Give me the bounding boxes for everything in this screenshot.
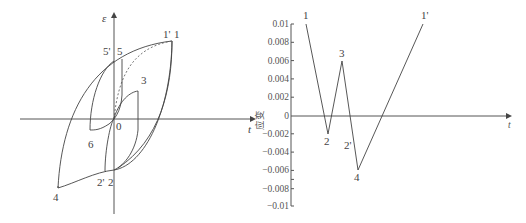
y-tick-labels: 0.01 0.008 0.006 0.004 0.002 0 −0.002 −0… — [262, 19, 289, 211]
point-label-6: 6 — [88, 138, 94, 150]
strain-history-chart: 应变 0.01 0.008 0.006 0.004 0.002 0 −0.002… — [254, 9, 512, 211]
svg-text:0.01: 0.01 — [272, 19, 289, 29]
point-label-1: 1 — [174, 28, 180, 40]
svg-text:0.004: 0.004 — [268, 74, 290, 84]
y-axis-label: ε — [102, 12, 107, 24]
point-label-2-prime: 2' — [344, 139, 352, 151]
point-label-5-prime: 5' — [103, 45, 111, 57]
y-axis-label: 应变 — [254, 110, 265, 130]
svg-text:−0.002: −0.002 — [262, 129, 289, 139]
point-label-0: 0 — [116, 120, 122, 132]
svg-text:−0.006: −0.006 — [262, 165, 289, 175]
svg-text:−0.01: −0.01 — [267, 201, 289, 211]
point-label-4: 4 — [354, 171, 360, 183]
strain-path-line — [306, 24, 423, 170]
figure-canvas: ε t 1' 1 5' 5 3 0 6 2' 2 4 应变 — [0, 0, 526, 223]
point-label-1: 1 — [303, 9, 309, 21]
point-label-3: 3 — [141, 74, 147, 86]
svg-text:−0.004: −0.004 — [262, 147, 289, 157]
hysteresis-diagram: ε t 1' 1 5' 5 3 0 6 2' 2 4 — [20, 12, 256, 214]
x-axis-label: t — [248, 123, 252, 135]
svg-text:−0.008: −0.008 — [262, 184, 289, 194]
point-label-2: 2 — [324, 135, 330, 147]
svg-text:0.008: 0.008 — [268, 37, 290, 47]
inner-loop-2-3 — [105, 91, 138, 171]
point-label-2-prime: 2' — [97, 176, 105, 188]
x-axis-label: t — [508, 120, 511, 130]
point-label-1-prime: 1' — [163, 28, 171, 40]
point-label-2: 2 — [108, 176, 114, 188]
svg-text:0.006: 0.006 — [268, 56, 290, 66]
svg-text:0: 0 — [284, 111, 289, 121]
svg-text:0.002: 0.002 — [268, 92, 290, 102]
point-label-4: 4 — [53, 191, 59, 203]
y-axis-arrow-icon — [111, 12, 117, 18]
point-label-1-prime: 1' — [421, 9, 429, 21]
point-label-3: 3 — [339, 47, 345, 59]
x-axis-arrow-icon — [506, 113, 512, 119]
point-label-5: 5 — [117, 45, 123, 57]
